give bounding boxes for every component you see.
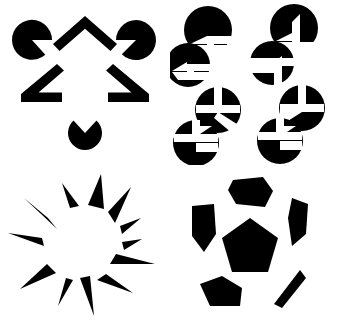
disc-3-notch4 bbox=[194, 64, 212, 71]
radial-spikes-svg bbox=[0, 160, 170, 323]
disc-2-notch2 bbox=[292, 33, 300, 52]
disc-4-notch3 bbox=[250, 65, 274, 73]
patch-upper-right bbox=[288, 198, 308, 246]
patch-upper-left bbox=[192, 204, 216, 252]
spike-1 bbox=[88, 174, 104, 209]
spike-3 bbox=[108, 187, 131, 223]
panel-kanizsa-triangle bbox=[0, 0, 170, 165]
disc-8-notch2 bbox=[276, 118, 284, 138]
spike-9 bbox=[20, 264, 56, 289]
spike-11 bbox=[58, 278, 73, 306]
disc-7-notch3 bbox=[196, 143, 218, 152]
disc-1-notch4 bbox=[214, 36, 232, 44]
patch-lower-left bbox=[200, 276, 242, 306]
cube-inducer-disc-8 bbox=[257, 118, 303, 164]
pacman-top-left-icon bbox=[12, 20, 52, 60]
cube-inducer-disc-4 bbox=[250, 41, 294, 88]
spike-5 bbox=[120, 218, 141, 234]
spike-2 bbox=[62, 183, 79, 208]
patch-lower-right bbox=[274, 270, 306, 308]
disc-7-notch2 bbox=[192, 120, 200, 140]
disc-5-notch2 bbox=[214, 86, 222, 110]
panel-illusory-cubes bbox=[170, 0, 337, 165]
disc-6-notch2 bbox=[298, 85, 306, 108]
chevron-top-icon bbox=[53, 16, 117, 51]
spike-12 bbox=[80, 276, 94, 316]
pacman-top-right-icon bbox=[116, 20, 156, 60]
disc-4-notch bbox=[250, 58, 294, 66]
patch-top bbox=[228, 177, 273, 207]
illusory-cubes-svg bbox=[170, 0, 337, 165]
disc-8-notch3 bbox=[280, 141, 302, 150]
angle-bottom-right-icon bbox=[106, 64, 149, 102]
spike-7 bbox=[122, 239, 142, 250]
pacman-bottom-icon bbox=[68, 121, 102, 151]
soccer-ball-svg bbox=[170, 160, 337, 323]
spike-8 bbox=[110, 254, 155, 264]
kanizsa-triangle-svg bbox=[0, 0, 170, 165]
soccer-patch-group bbox=[192, 177, 308, 308]
spike-6 bbox=[8, 233, 44, 246]
disc-3-notch2 bbox=[187, 64, 194, 80]
spike-10 bbox=[97, 274, 133, 293]
disc-1-notch2 bbox=[207, 36, 214, 54]
panel-radial-spikes bbox=[0, 160, 170, 323]
panel-soccer-ball bbox=[170, 160, 337, 323]
illusory-contour-figure bbox=[0, 0, 337, 323]
cube-inducer-disc-7 bbox=[173, 120, 219, 165]
patch-center-pentagon bbox=[222, 218, 278, 272]
radial-spike-group bbox=[8, 174, 155, 316]
angle-bottom-left-icon bbox=[21, 64, 64, 102]
spike-4 bbox=[24, 198, 57, 229]
